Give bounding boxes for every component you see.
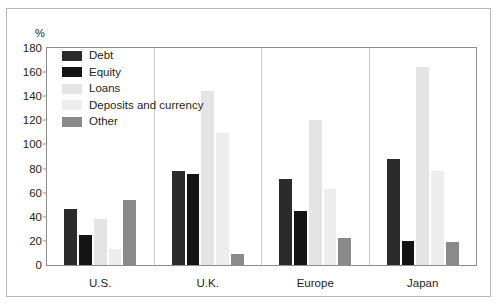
y-axis-tick-label: 40: [29, 211, 42, 223]
bar[interactable]: [337, 237, 352, 265]
bar[interactable]: [108, 248, 123, 265]
y-axis-tick-label: 80: [29, 163, 42, 175]
bar-group: Europe: [262, 48, 370, 265]
legend-item[interactable]: Other: [62, 116, 203, 127]
legend-item[interactable]: Debt: [62, 50, 203, 61]
legend-color-swatch: [62, 67, 82, 77]
legend-color-swatch: [62, 100, 82, 110]
legend-item-label: Loans: [89, 83, 120, 94]
legend-item[interactable]: Deposits and currency: [62, 100, 203, 111]
legend-item-label: Equity: [89, 67, 121, 78]
legend-item[interactable]: Equity: [62, 67, 203, 78]
bar[interactable]: [171, 170, 186, 265]
bar[interactable]: [230, 253, 245, 265]
y-axis-unit-label: %: [35, 27, 45, 39]
y-axis-tick-label: 180: [23, 42, 42, 54]
bar[interactable]: [63, 208, 78, 265]
y-axis-tick-label: 0: [36, 259, 42, 271]
bar[interactable]: [401, 240, 416, 265]
y-axis-tick-label: 140: [23, 90, 42, 102]
legend-item-label: Other: [89, 116, 118, 127]
bar[interactable]: [323, 188, 338, 265]
y-axis-tick-label: 120: [23, 114, 42, 126]
bar[interactable]: [78, 234, 93, 265]
x-axis-category-label: U.S.: [47, 277, 154, 289]
legend-item[interactable]: Loans: [62, 83, 203, 94]
legend-item-label: Deposits and currency: [89, 100, 203, 111]
bar[interactable]: [186, 173, 201, 265]
y-axis-tick-label: 60: [29, 187, 42, 199]
bar[interactable]: [308, 119, 323, 265]
figure-container: % 020406080100120140160180 U.S.U.K.Europ…: [0, 0, 498, 304]
bar[interactable]: [430, 170, 445, 265]
y-axis-tick-label: 160: [23, 66, 42, 78]
y-axis-tick-label: 20: [29, 235, 42, 247]
bar-group-bars: [386, 48, 460, 265]
legend-color-swatch: [62, 117, 82, 127]
bar[interactable]: [93, 218, 108, 265]
x-axis-category-label: U.K.: [155, 277, 262, 289]
x-axis-category-label: Japan: [370, 277, 477, 289]
chart-legend: DebtEquityLoansDeposits and currencyOthe…: [62, 50, 203, 127]
bar[interactable]: [386, 158, 401, 265]
bar[interactable]: [278, 178, 293, 265]
x-axis-category-label: Europe: [262, 277, 369, 289]
legend-item-label: Debt: [89, 50, 113, 61]
legend-color-swatch: [62, 84, 82, 94]
bar[interactable]: [293, 210, 308, 265]
y-axis-tick-label: 100: [23, 138, 42, 150]
bar-group-bars: [278, 48, 352, 265]
bar-group: Japan: [370, 48, 477, 265]
bar[interactable]: [122, 199, 137, 265]
bar[interactable]: [215, 132, 230, 265]
legend-color-swatch: [62, 51, 82, 61]
bar[interactable]: [445, 241, 460, 265]
bar[interactable]: [415, 66, 430, 265]
